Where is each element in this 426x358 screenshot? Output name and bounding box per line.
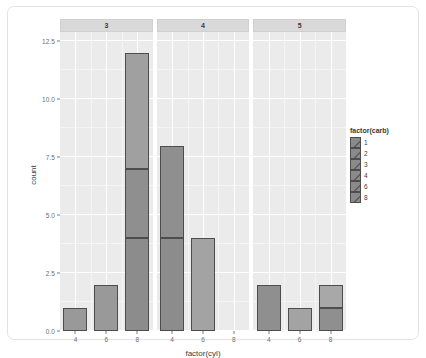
x-tick-mark [75,331,76,334]
x-tick-mark [137,331,138,334]
x-tick-label: 4 [74,336,78,343]
x-tick-label: 6 [298,336,302,343]
facet-panel: 3 [60,19,153,331]
legend-key-slash [351,181,361,192]
x-tick-label: 6 [105,336,109,343]
x-axis-title: factor(cyl) [60,349,346,358]
legend-item: 3 [350,159,408,170]
x-tick-mark [106,331,107,334]
x-axis-panel: 468 [60,331,153,349]
x-tick-label: 8 [329,336,333,343]
legend-items: 123468 [350,137,408,203]
x-axis-panel: 468 [157,331,250,349]
gridline-minor-vertical [122,32,123,331]
bar [160,146,184,331]
y-tick-label: 0.0 [46,328,55,335]
panel-plot-body [253,32,346,331]
bar-segment [257,285,281,331]
bar [288,308,312,331]
legend-item-label: 8 [364,194,368,201]
bar [125,53,149,331]
facet-panel: 5 [253,19,346,331]
legend-key-swatch [350,192,361,203]
facet-strip-label: 3 [60,19,153,32]
bar-segment [125,53,149,169]
bar [63,308,87,331]
legend-item: 8 [350,192,408,203]
y-axis-title: count [29,140,38,210]
legend-item: 4 [350,170,408,181]
x-tick-mark [172,331,173,334]
legend-key-slash [351,170,361,181]
x-tick-mark [233,331,234,334]
legend-item: 1 [350,137,408,148]
bar [191,238,215,331]
x-tick-label: 4 [267,336,271,343]
gridline-minor-vertical [218,32,219,331]
gridline-minor-vertical [284,32,285,331]
legend-key-slash [351,148,361,159]
x-tick-mark [203,331,204,334]
y-tick-label: 10.0 [42,96,55,103]
legend-item: 2 [350,148,408,159]
panel-plot-body [157,32,250,331]
bar [257,285,281,331]
legend-key-swatch [350,181,361,192]
gridline-major-vertical [75,32,76,331]
facet-strip-label: 4 [157,19,250,32]
legend-key-swatch [350,148,361,159]
facet-panels: 345 [60,19,346,331]
plot-area: count 0.02.55.07.510.012.5 345 468468468… [24,19,408,331]
gridline-major-vertical [234,32,235,331]
legend-item-label: 1 [364,139,368,146]
bar-segment [191,238,215,331]
x-tick-mark [268,331,269,334]
bar-segment [288,308,312,331]
bar-segment [125,238,149,331]
facet-panel: 4 [157,19,250,331]
gridline-minor-vertical [91,32,92,331]
bar-segment [160,238,184,331]
legend: factor(carb) 123468 [350,127,408,203]
legend-key-slash [351,192,361,203]
x-axis: 468468468 [60,331,346,349]
x-tick-label: 8 [232,336,236,343]
legend-key-swatch [350,170,361,181]
legend-item: 6 [350,181,408,192]
x-tick-label: 6 [201,336,205,343]
bar [94,285,118,331]
y-tick-label: 2.5 [46,270,55,277]
x-tick-mark [330,331,331,334]
legend-item-label: 3 [364,161,368,168]
bar-segment [319,308,343,331]
x-axis-panel: 468 [253,331,346,349]
chart-frame: count 0.02.55.07.510.012.5 345 468468468… [7,6,419,340]
bar-segment [63,308,87,331]
legend-item-label: 2 [364,150,368,157]
legend-title: factor(carb) [350,127,408,134]
gridline-minor-vertical [315,32,316,331]
y-tick-label: 5.0 [46,212,55,219]
x-tick-label: 4 [170,336,174,343]
gridline-major-vertical [300,32,301,331]
x-tick-mark [299,331,300,334]
gridline-minor-vertical [188,32,189,331]
bar [319,285,343,331]
legend-key-swatch [350,159,361,170]
facet-strip-label: 5 [253,19,346,32]
y-tick-label: 7.5 [46,154,55,161]
bar-segment [94,285,118,331]
bar-segment [319,285,343,308]
bar-segment [125,169,149,239]
panel-plot-body [60,32,153,331]
legend-key-slash [351,159,361,170]
legend-item-label: 6 [364,183,368,190]
y-axis: count 0.02.55.07.510.012.5 [24,19,60,331]
x-tick-label: 8 [135,336,139,343]
legend-item-label: 4 [364,172,368,179]
y-tick-label: 12.5 [42,38,55,45]
bar-segment [160,146,184,239]
legend-key-swatch [350,137,361,148]
legend-key-slash [351,137,361,148]
